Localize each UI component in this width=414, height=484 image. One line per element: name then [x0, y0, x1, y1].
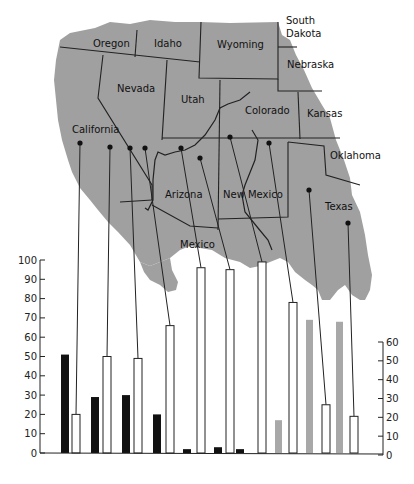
label-colorado: Colorado: [245, 105, 290, 116]
right-tick-label: 20: [386, 412, 399, 423]
site-marker-7: [227, 134, 232, 139]
site-marker-9: [306, 187, 311, 192]
bar-gray-9: [306, 320, 313, 453]
site-marker-10: [345, 220, 350, 225]
bar-black-5: [183, 449, 191, 453]
label-idaho: Idaho: [154, 38, 182, 49]
label-kansas: Kansas: [307, 108, 342, 119]
site-marker-8: [266, 140, 271, 145]
left-tick-label: 20: [24, 409, 37, 420]
left-tick-label: 60: [24, 332, 37, 343]
right-tick-label: 50: [386, 355, 399, 366]
map-and-chart-figure: Oregon Idaho Wyoming South Dakota Nebras…: [0, 0, 414, 484]
bar-white-10: [350, 416, 358, 453]
left-tick-label: 70: [24, 312, 37, 323]
bar-white-1: [72, 414, 80, 453]
site-marker-5: [178, 145, 183, 150]
map: Oregon Idaho Wyoming South Dakota Nebras…: [54, 15, 381, 300]
right-tick-label: 40: [386, 374, 399, 385]
site-marker-1: [77, 140, 82, 145]
left-tick-label: 80: [24, 293, 37, 304]
bar-black-6: [214, 447, 222, 453]
bar-gray-8: [275, 420, 282, 453]
label-oregon: Oregon: [93, 38, 130, 49]
label-new-mexico: New Mexico: [223, 189, 283, 200]
label-south-dakota-line1: South: [286, 15, 315, 26]
right-tick-label: 60: [386, 337, 399, 348]
label-nebraska: Nebraska: [287, 59, 334, 70]
label-california: California: [72, 124, 120, 135]
bar-white-7: [258, 262, 266, 453]
right-tick-label: 10: [386, 431, 399, 442]
right-y-axis: 0102030405060: [378, 337, 399, 461]
left-tick-label: 10: [24, 428, 37, 439]
site-marker-6: [197, 155, 202, 160]
bar-white-6: [226, 270, 234, 453]
label-arizona: Arizona: [165, 189, 203, 200]
label-texas: Texas: [324, 201, 353, 212]
bar-white-3: [134, 358, 142, 453]
bar-white-4: [166, 326, 174, 453]
label-oklahoma: Oklahoma: [330, 150, 381, 161]
bar-white-8: [289, 302, 297, 453]
bar-black-3: [122, 395, 130, 453]
left-tick-label: 0: [31, 448, 37, 459]
bar-black-2: [91, 397, 99, 453]
left-tick-label: 30: [24, 390, 37, 401]
left-tick-label: 50: [24, 351, 37, 362]
site-marker-2: [107, 144, 112, 149]
bar-black-4: [153, 414, 161, 453]
x-axis-baseline: [40, 453, 383, 454]
left-tick-label: 100: [18, 255, 37, 266]
bar-gray-10: [336, 322, 343, 453]
site-marker-4: [142, 145, 147, 150]
left-tick-label: 40: [24, 370, 37, 381]
bar-white-5: [197, 268, 205, 453]
bar-white-9: [322, 405, 330, 453]
label-nevada: Nevada: [117, 83, 155, 94]
right-tick-label: 30: [386, 393, 399, 404]
bar-black-7: [236, 449, 244, 453]
left-tick-label: 90: [24, 274, 37, 285]
label-south-dakota-line2: Dakota: [286, 28, 321, 39]
bar-white-2: [103, 357, 111, 454]
label-wyoming: Wyoming: [217, 39, 264, 50]
site-marker-3: [127, 145, 132, 150]
bars: [61, 262, 358, 453]
label-utah: Utah: [181, 94, 205, 105]
right-tick-label: 0: [386, 450, 392, 461]
bar-black-1: [61, 355, 69, 453]
